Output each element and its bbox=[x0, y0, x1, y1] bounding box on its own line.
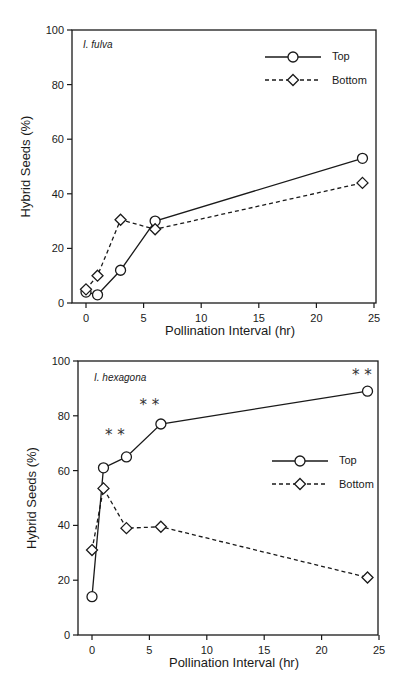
x-tick-label: 25 bbox=[368, 312, 380, 324]
figure: 0204060801000510152025Pollination Interv… bbox=[0, 0, 403, 696]
legend-circle-icon bbox=[288, 52, 298, 62]
x-tick-label: 5 bbox=[146, 644, 152, 656]
circle-marker bbox=[98, 463, 108, 473]
y-tick-label: 80 bbox=[52, 79, 64, 91]
x-tick-label: 0 bbox=[89, 644, 95, 656]
x-tick-label: 20 bbox=[310, 312, 322, 324]
x-tick-label: 20 bbox=[315, 644, 327, 656]
chart-panel-hexagona: 0204060801000510152025Pollination Interv… bbox=[24, 355, 385, 670]
circle-marker bbox=[93, 290, 103, 300]
diamond-marker bbox=[121, 523, 132, 534]
y-tick-label: 40 bbox=[58, 519, 70, 531]
significance-marker: * * bbox=[105, 426, 125, 444]
circle-marker bbox=[121, 452, 131, 462]
plot-frame bbox=[78, 361, 378, 635]
species-label: I. fulva bbox=[83, 39, 113, 50]
y-tick-label: 60 bbox=[58, 465, 70, 477]
y-tick-label: 0 bbox=[64, 629, 70, 641]
diamond-marker bbox=[362, 572, 373, 583]
y-tick-label: 100 bbox=[52, 355, 70, 367]
legend: TopBottom bbox=[272, 454, 374, 490]
legend-circle-icon bbox=[295, 456, 305, 466]
y-tick-label: 0 bbox=[58, 297, 64, 309]
series-line-top bbox=[92, 391, 368, 597]
y-tick-label: 60 bbox=[52, 133, 64, 145]
legend-diamond-icon bbox=[295, 479, 306, 490]
significance-marker: * * bbox=[352, 366, 372, 384]
y-tick-label: 20 bbox=[58, 574, 70, 586]
y-tick-label: 80 bbox=[58, 410, 70, 422]
circle-marker bbox=[357, 153, 367, 163]
x-axis-label: Pollination Interval (hr) bbox=[169, 655, 299, 670]
y-tick-label: 100 bbox=[46, 24, 64, 36]
legend-diamond-icon bbox=[288, 75, 299, 86]
x-tick-label: 5 bbox=[141, 312, 147, 324]
legend-label-bottom: Bottom bbox=[339, 478, 374, 490]
y-axis-label: Hybrid Seeds (%) bbox=[18, 116, 33, 218]
diamond-marker bbox=[150, 224, 161, 235]
x-tick-label: 0 bbox=[83, 312, 89, 324]
y-tick-label: 40 bbox=[52, 188, 64, 200]
series-line-bottom bbox=[92, 488, 368, 577]
plot-frame bbox=[72, 30, 376, 303]
x-axis-label: Pollination Interval (hr) bbox=[165, 323, 295, 338]
chart-panel-fulva: 0204060801000510152025Pollination Interv… bbox=[18, 24, 380, 338]
legend: TopBottom bbox=[265, 50, 367, 86]
legend-label-bottom: Bottom bbox=[332, 74, 367, 86]
diamond-marker bbox=[357, 177, 368, 188]
circle-marker bbox=[116, 265, 126, 275]
diamond-marker bbox=[98, 483, 109, 494]
circle-marker bbox=[363, 386, 373, 396]
circle-marker bbox=[87, 592, 97, 602]
diamond-marker bbox=[92, 270, 103, 281]
y-axis-label: Hybrid Seeds (%) bbox=[24, 447, 39, 549]
species-label: I. hexagona bbox=[94, 372, 147, 383]
legend-label-top: Top bbox=[332, 50, 350, 62]
y-tick-label: 20 bbox=[52, 242, 64, 254]
series-line-top bbox=[86, 158, 362, 295]
diamond-marker bbox=[115, 214, 126, 225]
circle-marker bbox=[156, 419, 166, 429]
series-line-bottom bbox=[86, 183, 362, 289]
diamond-marker bbox=[155, 521, 166, 532]
x-tick-label: 25 bbox=[373, 644, 385, 656]
legend-label-top: Top bbox=[339, 454, 357, 466]
significance-marker: * * bbox=[140, 396, 160, 414]
